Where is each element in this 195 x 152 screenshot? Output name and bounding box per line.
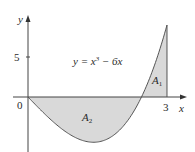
region-a1-fill bbox=[141, 25, 167, 97]
region-a2-sub: 2 bbox=[89, 117, 93, 125]
equation-lhs: y = x bbox=[72, 55, 96, 67]
x-tick-label-3: 3 bbox=[163, 101, 169, 113]
x-axis-label: x bbox=[178, 102, 184, 114]
equation-label: y = x3 − 6x bbox=[72, 55, 123, 67]
x-axis-arrow-icon bbox=[180, 95, 187, 100]
equation-rhs: − 6x bbox=[99, 55, 122, 67]
region-a1-sub: 1 bbox=[159, 80, 163, 88]
x-tick-label-0: 0 bbox=[17, 99, 23, 111]
area-chart: y x 5 0 3 y = x3 − 6x A1 A2 bbox=[0, 0, 195, 152]
y-axis-arrow-icon bbox=[26, 15, 31, 22]
y-tick-label-5: 5 bbox=[14, 51, 20, 63]
y-axis-label: y bbox=[17, 13, 23, 25]
